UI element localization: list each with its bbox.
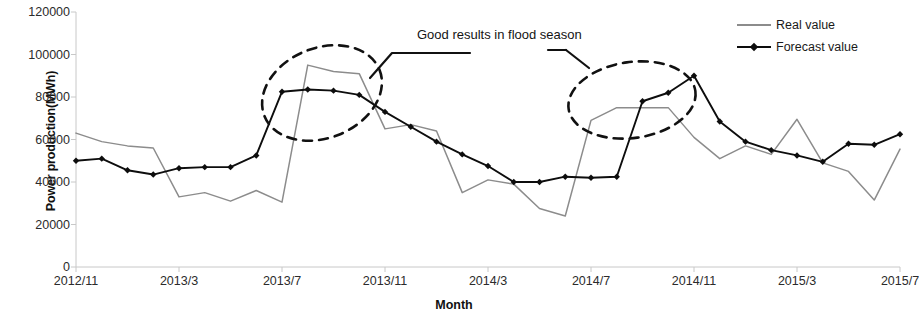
y-tick-label: 40000 [8, 175, 70, 189]
x-tick-label: 2014/3 [469, 274, 507, 288]
legend-label-forecast-value: Forecast value [776, 40, 858, 54]
legend-swatch-real-value [737, 18, 771, 32]
y-tick-label: 60000 [8, 133, 70, 147]
x-axis-title: Month [0, 298, 908, 312]
x-tick-label: 2013/11 [363, 274, 407, 288]
chart-legend: Real value Forecast value [737, 14, 905, 58]
x-tick-label: 2013/7 [263, 274, 301, 288]
x-tick-label: 2013/3 [160, 274, 198, 288]
y-tick-label: 20000 [8, 218, 70, 232]
x-tick-label: 2012/11 [54, 274, 98, 288]
y-tick-label: 120000 [8, 5, 70, 19]
y-axis-tick-labels: 020000400006000080000100000120000 [0, 0, 70, 320]
legend-item-forecast-value: Forecast value [737, 36, 905, 58]
x-tick-label: 2015/3 [778, 274, 816, 288]
x-tick-label: 2015/7 [881, 274, 919, 288]
annotation-layer [248, 28, 701, 158]
y-tick-label: 80000 [8, 90, 70, 104]
diamond-marker-icon [750, 43, 758, 51]
y-tick-label: 100000 [8, 48, 70, 62]
x-tick-label: 2014/7 [572, 274, 610, 288]
y-tick-label: 0 [8, 260, 70, 274]
annotation-good-results: Good results in flood season [417, 27, 582, 42]
series-lines [73, 65, 903, 216]
legend-swatch-forecast-value [737, 40, 771, 54]
legend-item-real-value: Real value [737, 14, 905, 36]
legend-label-real-value: Real value [776, 18, 835, 32]
x-tick-label: 2014/11 [672, 274, 716, 288]
